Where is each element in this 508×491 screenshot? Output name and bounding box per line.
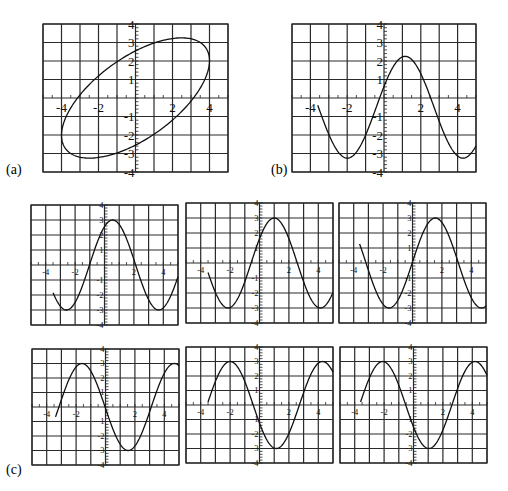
panel-label-a: (a): [6, 162, 22, 178]
y-tick-label: 1: [407, 243, 411, 253]
x-tick-label: 2: [133, 409, 137, 419]
panel-label-b: (b): [271, 162, 287, 178]
x-tick-label: -2: [342, 100, 353, 115]
x-tick-label: -2: [93, 100, 104, 115]
x-tick-label: -4: [351, 407, 359, 417]
y-tick-label: -4: [404, 318, 412, 328]
x-tick-label: 2: [287, 407, 291, 417]
y-tick-label: -4: [405, 458, 413, 468]
y-tick-label: -3: [405, 443, 412, 453]
x-tick-label: -4: [197, 407, 205, 417]
y-tick-label: 3: [408, 356, 412, 366]
x-tick-label: 2: [169, 100, 176, 115]
y-tick-label: -3: [372, 146, 383, 161]
x-tick-label: -4: [350, 265, 358, 275]
y-tick-label: -3: [251, 443, 258, 453]
y-tick-label: -4: [372, 165, 383, 180]
y-tick-label: 3: [99, 215, 103, 225]
x-tick-label: -2: [380, 265, 387, 275]
y-tick-label: -2: [251, 429, 258, 439]
y-tick-label: -3: [96, 305, 103, 315]
y-tick-label: -4: [251, 318, 259, 328]
y-tick-label: 3: [377, 35, 384, 50]
y-tick-label: -1: [124, 109, 135, 124]
y-tick-label: 4: [128, 17, 135, 32]
y-tick-label: -1: [372, 109, 383, 124]
chart-c6: -4-2244321-1-2-3-4: [340, 342, 487, 468]
x-tick-label: -2: [72, 267, 79, 277]
y-tick-label: 3: [100, 358, 104, 368]
x-tick-label: -4: [43, 409, 51, 419]
y-tick-label: 3: [254, 356, 258, 366]
x-tick-label: -4: [305, 100, 316, 115]
x-tick-label: 4: [162, 409, 167, 419]
x-tick-label: -2: [227, 407, 234, 417]
chart-c1: -4-2244321-1-2-3-4: [31, 200, 178, 330]
chart-c2: -4-2244321-1-2-3-4: [186, 198, 333, 328]
y-tick-label: 2: [100, 373, 104, 383]
y-tick-label: -3: [404, 303, 411, 313]
y-tick-label: -4: [251, 458, 259, 468]
panel-label-c: (c): [6, 462, 22, 478]
x-tick-label: -2: [73, 409, 80, 419]
y-tick-label: -2: [124, 128, 135, 143]
x-tick-label: 4: [469, 265, 474, 275]
y-tick-label: -1: [97, 416, 104, 426]
y-tick-label: 1: [128, 72, 135, 87]
x-tick-label: 4: [316, 407, 321, 417]
y-tick-label: -2: [404, 288, 411, 298]
x-tick-label: 4: [206, 100, 213, 115]
chart-c4: -4-2244321-1-2-3-4: [32, 344, 179, 470]
y-tick-label: -4: [124, 165, 135, 180]
chart-c5: -4-2244321-1-2-3-4: [186, 342, 333, 468]
y-tick-label: 1: [254, 385, 258, 395]
x-tick-label: -2: [227, 265, 234, 275]
x-tick-label: 4: [454, 100, 461, 115]
y-tick-label: 1: [99, 245, 103, 255]
figure-canvas: -4-2244321-1-2-3-4-4-2244321-1-2-3-4-4-2…: [0, 0, 508, 491]
chart-a: -4-2244321-1-2-3-4: [43, 17, 228, 180]
x-tick-label: 4: [316, 265, 321, 275]
x-tick-label: 2: [441, 407, 445, 417]
x-tick-label: -4: [197, 265, 205, 275]
x-tick-label: -4: [56, 100, 67, 115]
chart-c3: -4-2244321-1-2-3-4: [339, 198, 486, 328]
y-tick-label: -2: [405, 429, 412, 439]
x-tick-label: -2: [381, 407, 388, 417]
y-tick-label: -1: [251, 273, 258, 283]
y-tick-label: -2: [97, 431, 104, 441]
y-tick-label: -2: [96, 290, 103, 300]
y-tick-label: 1: [408, 385, 412, 395]
x-tick-label: 2: [440, 265, 444, 275]
y-tick-label: 2: [377, 54, 384, 69]
x-tick-label: 4: [161, 267, 166, 277]
x-tick-label: 2: [418, 100, 425, 115]
y-tick-label: 3: [128, 35, 135, 50]
y-tick-label: -4: [96, 320, 104, 330]
y-tick-label: -4: [97, 460, 105, 470]
chart-b: -4-2244321-1-2-3-4: [292, 17, 476, 180]
y-tick-label: 3: [407, 213, 411, 223]
y-tick-label: -3: [251, 303, 258, 313]
y-tick-label: 2: [128, 54, 135, 69]
x-tick-label: 2: [287, 265, 291, 275]
y-tick-label: 2: [254, 371, 258, 381]
y-tick-label: -3: [97, 445, 104, 455]
y-tick-label: -1: [96, 275, 103, 285]
y-tick-label: 3: [254, 213, 258, 223]
y-tick-label: -2: [251, 288, 258, 298]
y-tick-label: 2: [254, 228, 258, 238]
y-tick-label: -2: [372, 128, 383, 143]
x-tick-label: 2: [132, 267, 136, 277]
y-tick-label: 2: [408, 371, 412, 381]
y-tick-label: 2: [407, 228, 411, 238]
y-tick-label: 1: [377, 72, 384, 87]
y-tick-label: 4: [377, 17, 384, 32]
x-tick-label: 4: [470, 407, 475, 417]
x-tick-label: -4: [42, 267, 50, 277]
